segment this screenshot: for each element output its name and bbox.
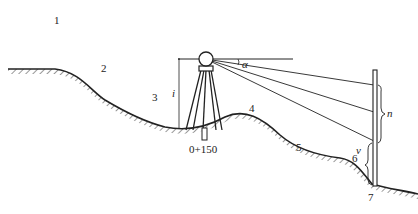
ground-hatch xyxy=(8,69,418,199)
point-label-4: 4 xyxy=(249,102,255,114)
station-label: 0+150 xyxy=(189,143,218,155)
staff-reading-brace xyxy=(378,85,385,143)
sight-line-1 xyxy=(212,60,374,85)
point-label-7: 7 xyxy=(368,191,374,203)
vertical-angle-arc xyxy=(238,59,239,65)
leveling-staff xyxy=(373,70,377,186)
vertical-angle-label: α xyxy=(242,58,248,70)
point-label-3: 3 xyxy=(152,91,158,103)
theodolite-head xyxy=(199,52,213,66)
point-label-1: 1 xyxy=(54,14,60,26)
staff-reading-label: n xyxy=(387,107,393,119)
point-label-5: 5 xyxy=(296,141,302,153)
ground-profile-line xyxy=(8,69,418,194)
point-label-2: 2 xyxy=(101,62,107,74)
sight-line-2 xyxy=(212,61,374,112)
point-label-6: 6 xyxy=(352,152,358,164)
instrument-height-label: i xyxy=(172,87,175,99)
sight-line-3 xyxy=(212,62,374,141)
survey-diagram: i α n v 1 2 3 4 5 6 7 0+150 xyxy=(0,0,418,214)
